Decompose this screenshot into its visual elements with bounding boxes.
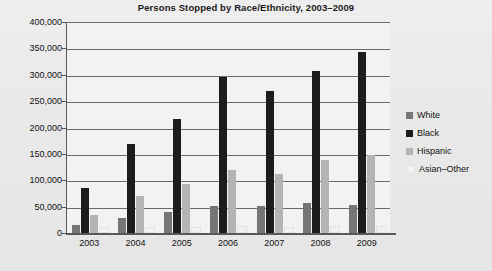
bar: [72, 225, 80, 233]
bar: [136, 196, 144, 233]
bar: [219, 77, 227, 233]
bar: [266, 91, 274, 233]
y-axis-tick-label: 0: [4, 228, 62, 238]
bar: [321, 160, 329, 233]
y-axis-tick-label: 150,000: [4, 149, 62, 159]
bar: [210, 206, 218, 233]
legend-swatch-icon: [406, 130, 413, 137]
bar: [81, 188, 89, 233]
legend-item-label: White: [417, 110, 440, 120]
bar: [358, 52, 366, 233]
y-axis-tick-label: 400,000: [4, 17, 62, 27]
bar-group: [206, 22, 252, 233]
x-axis-line: [66, 233, 396, 235]
bar: [237, 226, 247, 233]
bar: [376, 226, 386, 233]
bar-group: [252, 22, 298, 233]
x-axis-tick-label: 2005: [159, 238, 205, 248]
bar: [257, 206, 265, 233]
bar: [275, 174, 283, 233]
bar-group: [345, 22, 391, 233]
bar: [367, 155, 375, 233]
legend-swatch-icon: [406, 112, 413, 119]
bar: [303, 203, 311, 233]
chart-title: Persons Stopped by Race/Ethnicity, 2003–…: [0, 2, 492, 13]
legend-item-label: Hispanic: [417, 146, 452, 156]
x-axis-tick-label: 2008: [297, 238, 343, 248]
legend-item: Hispanic: [406, 142, 492, 160]
x-axis-tick-label: 2009: [344, 238, 390, 248]
x-axis-tick-label: 2007: [251, 238, 297, 248]
y-axis-tick-label: 350,000: [4, 43, 62, 53]
y-axis-labels: 400,000350,000300,000250,000200,000150,0…: [0, 0, 62, 271]
bar: [330, 226, 340, 233]
bar: [312, 71, 320, 233]
y-axis-tick-label: 200,000: [4, 123, 62, 133]
legend-item-label: Asian–Other: [419, 164, 469, 174]
bar-group: [298, 22, 344, 233]
bar: [349, 205, 357, 233]
bar: [164, 212, 172, 233]
y-axis-tick-label: 300,000: [4, 70, 62, 80]
chart-figure: Persons Stopped by Race/Ethnicity, 2003–…: [0, 0, 492, 271]
y-axis-tick-label: 50,000: [4, 202, 62, 212]
bar: [118, 218, 126, 233]
bar: [228, 170, 236, 233]
bar: [90, 215, 98, 233]
chart-legend: WhiteBlackHispanicAsian–Other: [406, 106, 492, 178]
legend-swatch-icon: [406, 165, 415, 174]
x-axis-tick-label: 2003: [66, 238, 112, 248]
legend-swatch-icon: [406, 148, 413, 155]
bar: [127, 144, 135, 233]
plot-area: [66, 22, 390, 233]
y-axis-tick-label: 250,000: [4, 96, 62, 106]
y-axis-tick-label: 100,000: [4, 175, 62, 185]
legend-item: White: [406, 106, 492, 124]
legend-item-label: Black: [417, 128, 439, 138]
legend-item: Black: [406, 124, 492, 142]
bar-group: [67, 22, 113, 233]
bar-group: [113, 22, 159, 233]
legend-item: Asian–Other: [406, 160, 492, 178]
bar-group: [160, 22, 206, 233]
bar: [173, 119, 181, 233]
x-axis-tick-label: 2006: [205, 238, 251, 248]
bar: [182, 184, 190, 233]
x-axis-tick-label: 2004: [112, 238, 158, 248]
